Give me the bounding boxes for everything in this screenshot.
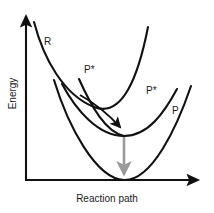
diagram-canvas: [0, 0, 214, 213]
curve-label-product: P: [172, 105, 179, 116]
curve-excited-product-Pstar-upper: [79, 79, 124, 136]
energy-diagram-figure: Energy Reaction path R P* P* P: [0, 0, 214, 213]
y-axis-label: Energy: [7, 64, 18, 124]
curve-label-excited-product-2: P*: [146, 85, 157, 96]
curve-excited-product-Pstar-lower: [62, 84, 177, 136]
curve-label-reactant: R: [44, 36, 51, 47]
crossing-arrow-icon: [80, 95, 120, 127]
x-axis-label: Reaction path: [0, 193, 214, 204]
curve-label-excited-product-1: P*: [84, 64, 95, 75]
curves-group: [34, 22, 191, 180]
